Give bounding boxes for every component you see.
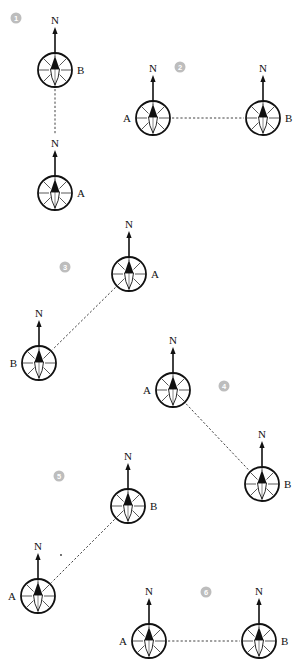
north-arrow-icon: [125, 463, 130, 488]
north-arrow-icon: [170, 347, 175, 372]
step-number-badge: 6: [201, 587, 212, 598]
step-number-badge: 4: [219, 381, 230, 392]
svg-text:1: 1: [14, 14, 18, 23]
compass-rose-icon: [132, 624, 166, 658]
panel-1: 1NBNA: [11, 13, 86, 211]
svg-text:5: 5: [57, 472, 61, 481]
panel-6: 6NANB: [119, 585, 288, 658]
compass-rose-icon: [136, 101, 170, 135]
panel-3: 3NANB: [10, 218, 159, 380]
compass-rose-icon: [22, 346, 56, 380]
point-label: A: [123, 112, 131, 124]
compass-b: NB: [111, 450, 157, 523]
step-number-badge: 5: [54, 471, 65, 482]
compass-b: NB: [245, 428, 291, 501]
north-label: N: [125, 218, 133, 230]
compass-rose-icon: [245, 467, 279, 501]
point-label: A: [143, 384, 151, 396]
point-label: A: [151, 268, 159, 280]
point-label: B: [284, 478, 291, 490]
north-arrow-icon: [52, 150, 57, 175]
north-arrow-icon: [150, 75, 155, 100]
north-arrow-icon: [36, 320, 41, 345]
point-label: A: [77, 187, 85, 199]
compass-rose-icon: [21, 579, 55, 613]
compass-a: NA: [119, 585, 166, 658]
north-arrow-icon: [256, 598, 261, 623]
north-arrow-icon: [146, 598, 151, 623]
compass-a: NA: [8, 540, 55, 613]
panels-layer: 1NBNA2NANB3NANB4NANB5NBNA6NANB: [8, 13, 292, 659]
north-arrow-icon: [259, 441, 264, 466]
compass-b: NB: [38, 14, 84, 87]
compass-rose-icon: [111, 489, 145, 523]
panel-4: 4NANB: [143, 334, 291, 501]
compass-bearing-diagram: 1NBNA2NANB3NANB4NANB5NBNA6NANB: [0, 0, 302, 672]
north-label: N: [34, 540, 42, 552]
compass-rose-icon: [38, 53, 72, 87]
step-number-badge: 1: [11, 13, 22, 24]
point-label: B: [150, 500, 157, 512]
compass-a: NA: [38, 137, 85, 210]
compass-a: NA: [143, 334, 190, 407]
point-label: B: [10, 357, 17, 369]
compass-rose-icon: [38, 176, 72, 210]
dashed-connector-line: [51, 519, 114, 582]
compass-rose-icon: [242, 624, 276, 658]
north-arrow-icon: [35, 553, 40, 578]
point-label: B: [281, 635, 288, 647]
compass-rose-icon: [156, 373, 190, 407]
north-label: N: [51, 14, 59, 26]
north-label: N: [124, 450, 132, 462]
north-label: N: [145, 585, 153, 597]
dashed-connector-line: [186, 404, 249, 470]
compass-b: NB: [10, 307, 56, 380]
north-arrow-icon: [52, 27, 57, 52]
point-label: B: [77, 64, 84, 76]
north-label: N: [255, 585, 263, 597]
point-label: A: [119, 635, 127, 647]
north-label: N: [169, 334, 177, 346]
north-label: N: [149, 62, 157, 74]
north-label: N: [258, 428, 266, 440]
north-label: N: [51, 137, 59, 149]
north-label: N: [35, 307, 43, 319]
panel-2: 2NANB: [123, 62, 292, 136]
panel-5: 5NBNA: [8, 450, 157, 613]
compass-a: NA: [123, 62, 170, 135]
north-label: N: [259, 62, 267, 74]
compass-rose-icon: [112, 257, 146, 291]
point-label: B: [285, 112, 292, 124]
svg-text:6: 6: [204, 588, 208, 597]
north-arrow-icon: [126, 231, 131, 256]
stray-dot: [60, 554, 62, 556]
compass-b: NB: [246, 62, 292, 135]
svg-text:2: 2: [178, 63, 182, 72]
svg-text:3: 3: [63, 263, 67, 272]
dashed-connector-line: [53, 287, 116, 349]
compass-rose-icon: [246, 101, 280, 135]
step-number-badge: 2: [175, 62, 186, 73]
step-number-badge: 3: [60, 262, 71, 273]
compass-a: NA: [112, 218, 159, 291]
north-arrow-icon: [260, 75, 265, 100]
compass-b: NB: [242, 585, 288, 658]
point-label: A: [8, 590, 16, 602]
